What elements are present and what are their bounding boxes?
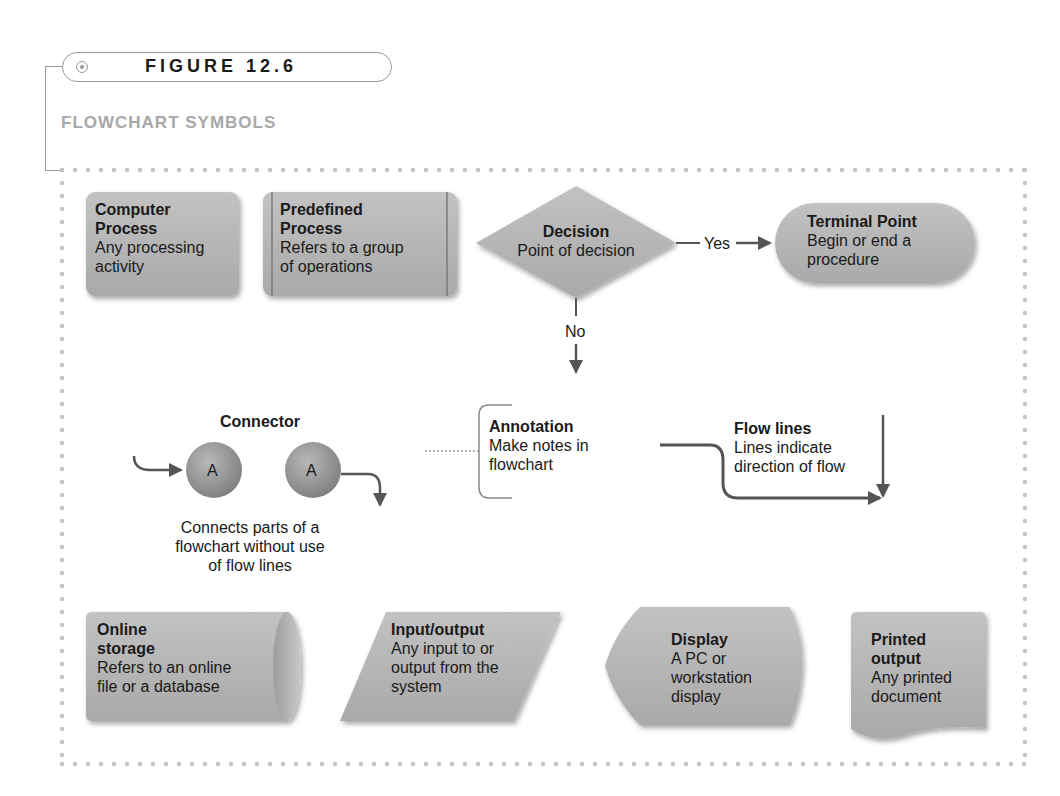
connector-in-arrow — [134, 456, 181, 470]
decision-yes-label: Yes — [704, 234, 730, 253]
printed-output-desc-1: Any printed — [871, 668, 952, 687]
online-storage-title-1: Online — [97, 620, 231, 639]
terminal-point-label: Terminal Point Begin or end a procedure — [807, 212, 917, 269]
display-title: Display — [671, 630, 752, 649]
decision-desc: Point of decision — [486, 241, 666, 260]
online-storage-desc-2: file or a database — [97, 677, 231, 696]
connector-letter-1: A — [207, 461, 218, 480]
display-desc-1: A PC or — [671, 649, 752, 668]
connector-desc-3: of flow lines — [150, 556, 350, 575]
input-output-desc-1: Any input to or — [391, 639, 499, 658]
annotation-title: Annotation — [489, 417, 589, 436]
flow-lines-title: Flow lines — [734, 419, 845, 438]
computer-process-label: Computer Process Any processing activity — [95, 200, 204, 276]
predefined-process-desc-1: Refers to a group — [280, 238, 404, 257]
annotation-label: Annotation Make notes in flowchart — [489, 417, 589, 474]
display-desc-3: display — [671, 687, 752, 706]
predefined-process-title-1: Predefined — [280, 200, 404, 219]
display-desc-2: workstation — [671, 668, 752, 687]
annotation-desc-1: Make notes in — [489, 436, 589, 455]
input-output-desc-3: system — [391, 677, 499, 696]
connector-desc: Connects parts of a flowchart without us… — [150, 518, 350, 575]
printed-output-desc-2: document — [871, 687, 952, 706]
online-storage-label: Online storage Refers to an online file … — [97, 620, 231, 696]
decision-label: Decision Point of decision — [486, 222, 666, 260]
flow-lines-desc-2: direction of flow — [734, 457, 845, 476]
display-label: Display A PC or workstation display — [671, 630, 752, 706]
flow-lines-label: Flow lines Lines indicate direction of f… — [734, 419, 845, 476]
flow-lines-desc-1: Lines indicate — [734, 438, 845, 457]
printed-output-label: Printed output Any printed document — [871, 630, 952, 706]
connector-out-arrow — [341, 474, 380, 505]
predefined-process-title-2: Process — [280, 219, 404, 238]
decision-title: Decision — [486, 222, 666, 241]
terminal-point-desc-1: Begin or end a — [807, 231, 917, 250]
printed-output-title-1: Printed — [871, 630, 952, 649]
decision-no-label: No — [565, 322, 585, 341]
connector-letter-2: A — [306, 461, 317, 480]
computer-process-desc-2: activity — [95, 257, 204, 276]
online-storage-desc-1: Refers to an online — [97, 658, 231, 677]
printed-output-title-2: output — [871, 649, 952, 668]
input-output-desc-2: output from the — [391, 658, 499, 677]
computer-process-title-1: Computer — [95, 200, 204, 219]
computer-process-desc-1: Any processing — [95, 238, 204, 257]
input-output-label: Input/output Any input to or output from… — [391, 620, 499, 696]
online-storage-title-2: storage — [97, 639, 231, 658]
input-output-title: Input/output — [391, 620, 499, 639]
predefined-process-label: Predefined Process Refers to a group of … — [280, 200, 404, 276]
predefined-process-desc-2: of operations — [280, 257, 404, 276]
computer-process-title-2: Process — [95, 219, 204, 238]
terminal-point-title: Terminal Point — [807, 212, 917, 231]
connector-desc-1: Connects parts of a — [150, 518, 350, 537]
annotation-desc-2: flowchart — [489, 455, 589, 474]
terminal-point-desc-2: procedure — [807, 250, 917, 269]
connector-desc-2: flowchart without use — [150, 537, 350, 556]
connector-title: Connector — [220, 412, 300, 431]
